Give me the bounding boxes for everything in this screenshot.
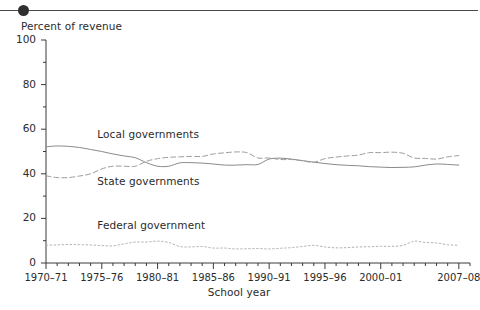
y-tick-label: 40	[6, 167, 36, 179]
series-label-state-governments: State governments	[97, 175, 199, 187]
x-tick-label: 1990–91	[248, 272, 291, 283]
y-tick-label: 80	[6, 78, 36, 90]
x-axis-title: School year	[0, 286, 478, 298]
y-tick-label: 20	[6, 211, 36, 223]
x-tick-label: 1980–81	[136, 272, 179, 283]
series-label-federal-government: Federal government	[97, 219, 205, 231]
chart-series	[46, 146, 459, 249]
x-tick-label: 2007–08	[437, 272, 480, 283]
x-tick-label: 1995–96	[303, 272, 346, 283]
chart-axes	[41, 40, 470, 269]
y-tick-label: 100	[6, 33, 36, 45]
y-tick-label: 0	[6, 256, 36, 268]
series-label-local-governments: Local governments	[97, 128, 199, 140]
series-line-0	[46, 146, 459, 168]
series-line-2	[46, 241, 459, 249]
x-tick-label: 2000–01	[359, 272, 402, 283]
y-tick-label: 60	[6, 122, 36, 134]
x-tick-label: 1970–71	[24, 272, 67, 283]
x-tick-label: 1975–76	[80, 272, 123, 283]
x-tick-label: 1985–86	[192, 272, 235, 283]
